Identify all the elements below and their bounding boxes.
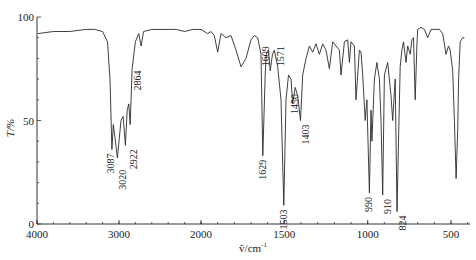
tick-labels: 40003000200015001000500050100 bbox=[18, 11, 460, 240]
tick-marks bbox=[37, 17, 468, 224]
peak-label: 910 bbox=[382, 199, 393, 214]
peak-label: 1450 bbox=[289, 94, 300, 114]
peak-label: 1609 bbox=[260, 46, 271, 66]
y-tick-label: 50 bbox=[23, 115, 35, 127]
y-tick-label: 100 bbox=[18, 11, 35, 23]
peak-label: 1571 bbox=[275, 46, 286, 66]
x-tick-label: 3000 bbox=[108, 228, 131, 240]
peak-label: 1629 bbox=[257, 160, 268, 180]
ir-spectrum-chart: 40003000200015001000500050100 3087302029… bbox=[0, 0, 476, 260]
y-axis-title: T/% bbox=[4, 119, 16, 137]
peak-label: 824 bbox=[397, 216, 408, 231]
peak-label: 3020 bbox=[117, 170, 128, 190]
x-axis-title: ṽ/cm-1 bbox=[239, 241, 267, 254]
axes bbox=[37, 17, 470, 224]
peak-label: 1403 bbox=[300, 125, 311, 145]
x-tick-label: 500 bbox=[443, 228, 460, 240]
y-tick-label: 0 bbox=[29, 218, 35, 230]
peak-label: 2864 bbox=[132, 71, 143, 91]
peak-label: 2922 bbox=[128, 149, 139, 169]
x-axis-title-exponent: -1 bbox=[261, 241, 267, 249]
x-tick-label: 2000 bbox=[190, 228, 213, 240]
x-axis-title-unit: /cm bbox=[245, 242, 262, 254]
x-tick-label: 1000 bbox=[357, 228, 380, 240]
peak-label: 3087 bbox=[105, 154, 116, 174]
spectrum-line bbox=[38, 27, 465, 211]
peak-label: 1503 bbox=[278, 209, 289, 229]
peak-label: 990 bbox=[363, 197, 374, 212]
